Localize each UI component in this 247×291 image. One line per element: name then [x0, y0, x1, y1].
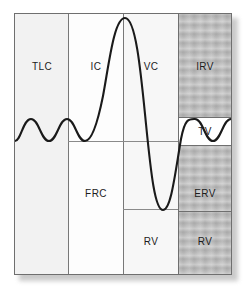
column-vc — [123, 14, 178, 274]
column-tlc — [15, 14, 68, 274]
label-rv-vc: RV — [144, 236, 159, 247]
label-erv: ERV — [194, 188, 216, 199]
rv-level-line-erv — [178, 211, 231, 212]
frc-level-line — [68, 141, 178, 142]
divider-ic-vc — [123, 14, 124, 274]
lung-volumes-figure: TLC IC VC IRV FRC TV ERV RV RV — [0, 0, 247, 291]
label-tv: TV — [198, 126, 212, 137]
label-irv: IRV — [196, 61, 214, 72]
spirogram-plate: TLC IC VC IRV FRC TV ERV RV RV — [14, 13, 232, 275]
label-frc: FRC — [85, 188, 107, 199]
label-rv-erv: RV — [198, 236, 213, 247]
label-vc: VC — [144, 61, 159, 72]
label-tlc: TLC — [32, 61, 52, 72]
column-ic — [68, 14, 123, 274]
label-ic: IC — [91, 61, 102, 72]
divider-tlc-ic — [68, 14, 69, 274]
divider-vc-irv — [178, 14, 179, 274]
rv-level-line-vc — [123, 209, 178, 210]
